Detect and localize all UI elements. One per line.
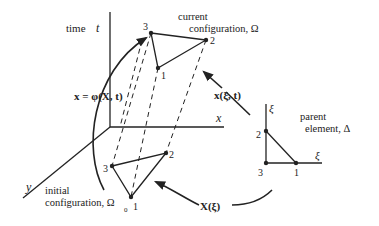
node-trajectories [112, 33, 206, 197]
initial-config-label-line1: initial [45, 185, 70, 196]
current-config-label-line2: configuration, Ω [189, 23, 259, 34]
coordinate-axes [23, 12, 224, 198]
motion-mapping-label: x = φ(X, t) [74, 90, 123, 103]
finite-element-mapping-diagram: time t x y current configuration, Ω 3 2 … [0, 0, 379, 226]
motion-arrow [93, 38, 146, 190]
parent-node-2: 2 [256, 129, 261, 140]
initial-node-2: 2 [169, 149, 174, 160]
current-element-triangle [151, 33, 206, 68]
initial-map-arrow [232, 190, 272, 205]
parent-element-label-line1: parent [300, 111, 326, 122]
current-node-3: 3 [143, 21, 148, 32]
current-config-label-line1: current [178, 11, 208, 22]
time-axis-label: time [66, 22, 86, 34]
y-axis-label: y [25, 180, 32, 194]
initial-node-3: 3 [103, 163, 108, 174]
parent-eta-axis-label: ξ [269, 102, 274, 115]
parent-node-3: 3 [258, 167, 263, 178]
current-node-2: 2 [210, 35, 215, 46]
initial-node-1: 1 [133, 201, 138, 212]
initial-config-label-line2: configuration, Ω [45, 197, 115, 208]
time-symbol: t [96, 21, 100, 35]
current-mapping-label: x(ξ, t) [214, 89, 241, 102]
current-node-1: 1 [161, 70, 166, 81]
initial-element-triangle [112, 153, 166, 197]
parent-element-label-line2: element, Δ [305, 123, 350, 134]
initial-mapping-label: X(ξ) [200, 200, 221, 213]
parent-node-1: 1 [294, 167, 299, 178]
initial-config-subscript: 0 [124, 206, 128, 214]
x-axis-label: x [215, 111, 222, 125]
parent-xi-axis-label: ξ [315, 149, 320, 162]
